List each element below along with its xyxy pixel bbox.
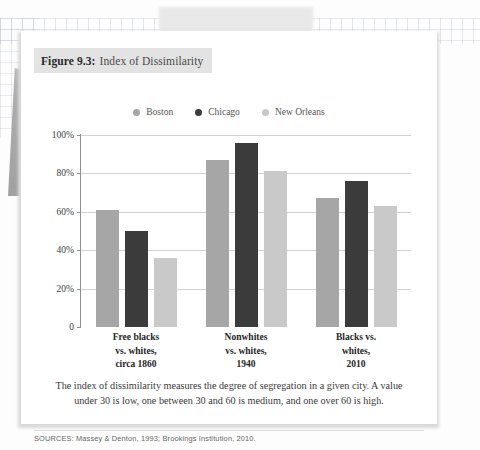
legend-swatch-icon (133, 109, 140, 116)
y-axis-tick-label: 40% (57, 245, 74, 255)
y-axis-tick-label: 100% (52, 130, 74, 140)
legend-label: New Orleans (275, 107, 325, 117)
x-axis-label-line: 1940 (191, 358, 301, 372)
x-axis-category-labels: Free blacksvs. whites,circa 1860Nonwhite… (81, 331, 411, 372)
y-axis-tick (77, 327, 81, 328)
bar (96, 210, 119, 327)
bar (154, 258, 177, 327)
legend-item-new-orleans: New Orleans (262, 107, 325, 117)
x-axis-label-line: Blacks vs. (301, 331, 411, 345)
bar (264, 171, 287, 327)
figure-number: Figure 9.3: (41, 55, 96, 67)
legend-swatch-icon (262, 109, 269, 116)
legend-item-chicago: Chicago (195, 107, 240, 117)
x-axis-label-line: 2010 (301, 358, 411, 372)
legend-label: Chicago (208, 107, 240, 117)
figure-card: Figure 9.3: Index of Dissimilarity Bosto… (21, 31, 437, 424)
bar-series-layer (81, 135, 411, 327)
x-axis-label-line: vs. whites, (191, 345, 301, 359)
x-axis-label-line: circa 1860 (81, 358, 191, 372)
y-axis-tick-label: 20% (57, 284, 74, 294)
bar (206, 160, 229, 327)
x-axis-label-line: vs. whites, (81, 345, 191, 359)
chart-plot-area: 100%80%60%40%20%0 (81, 135, 411, 327)
figure-title-text: Index of Dissimilarity (100, 55, 204, 67)
x-axis-label-line: whites, (301, 345, 411, 359)
bar (374, 206, 397, 327)
figure-sources: SOURCES: Massey & Denton, 1993; Brooking… (34, 434, 424, 443)
bar (235, 143, 258, 327)
x-axis-group-label: Free blacksvs. whites,circa 1860 (81, 331, 191, 372)
legend-swatch-icon (195, 109, 202, 116)
figure-title: Figure 9.3: Index of Dissimilarity (34, 48, 212, 73)
x-axis-group-label: Nonwhitesvs. whites,1940 (191, 331, 301, 372)
x-axis-group-label: Blacks vs.whites,2010 (301, 331, 411, 372)
y-axis-tick-label: 0 (69, 322, 74, 332)
sources-divider (34, 430, 424, 431)
bar (125, 231, 148, 327)
legend-item-boston: Boston (133, 107, 173, 117)
bar (345, 181, 368, 327)
y-axis-tick-label: 80% (57, 168, 74, 178)
y-axis-tick-label: 60% (57, 207, 74, 217)
bar (316, 198, 339, 327)
x-axis-label-line: Nonwhites (191, 331, 301, 345)
legend-label: Boston (146, 107, 173, 117)
x-axis-label-line: Free blacks (81, 331, 191, 345)
figure-caption: The index of dissimilarity measures the … (51, 379, 407, 408)
chart-legend: BostonChicagoNew Orleans (21, 107, 437, 117)
